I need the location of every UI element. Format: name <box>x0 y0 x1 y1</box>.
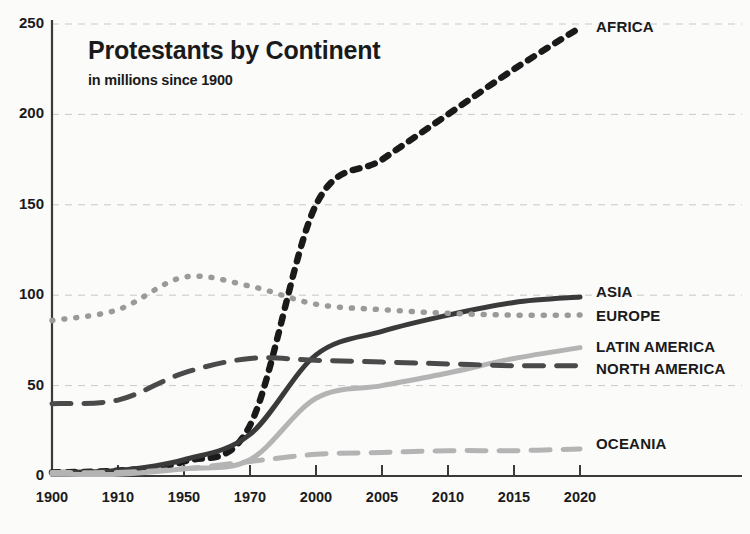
series-label-latin-america: LATIN AMERICA <box>596 338 715 355</box>
y-axis-tick-label: 150 <box>0 195 44 212</box>
series-line-europe <box>52 276 580 320</box>
x-axis-tick-label: 2000 <box>285 489 347 505</box>
series-line-africa <box>52 28 580 473</box>
series-label-europe: EUROPE <box>596 307 661 324</box>
x-axis-tick-label: 2010 <box>417 489 479 505</box>
series-label-oceania: OCEANIA <box>596 435 667 452</box>
series-label-africa: AFRICA <box>596 18 654 35</box>
series-line-asia <box>52 297 580 472</box>
x-axis-tick-label: 2020 <box>549 489 611 505</box>
chart-title: Protestants by Continent <box>88 36 380 65</box>
x-axis-tick-label: 2005 <box>351 489 413 505</box>
y-axis-tick-label: 50 <box>0 376 44 393</box>
x-axis-tick-label: 1900 <box>21 489 83 505</box>
series-label-north-america: NORTH AMERICA <box>596 360 726 377</box>
x-axis-tick-label: 1950 <box>153 489 215 505</box>
y-axis-tick-label: 200 <box>0 104 44 121</box>
chart-subtitle: in millions since 1900 <box>88 72 233 88</box>
chart-canvas: Protestants by Continent in millions sin… <box>0 0 750 534</box>
y-axis-tick-label: 0 <box>0 466 44 483</box>
axis-lines <box>52 20 742 476</box>
series-label-asia: ASIA <box>596 283 633 300</box>
x-axis-tick-label: 2015 <box>483 489 545 505</box>
y-axis-tick-label: 250 <box>0 14 44 31</box>
y-axis-tick-label: 100 <box>0 285 44 302</box>
x-axis-tick-label: 1970 <box>219 489 281 505</box>
x-axis-tick-label: 1910 <box>87 489 149 505</box>
